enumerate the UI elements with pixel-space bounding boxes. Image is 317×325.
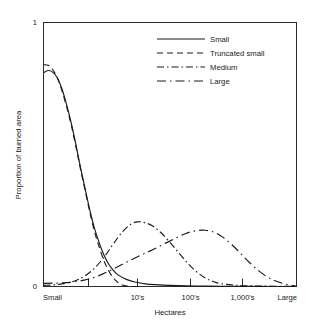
chart-legend: SmallTruncated smallMediumLarge [157, 35, 265, 86]
series-line-medium [44, 222, 297, 287]
x-axis-title: Hectares [154, 308, 185, 317]
figure-container: 1 0 Proportion of burned area Small 10's… [0, 0, 317, 325]
x-tick-label-large: Large [278, 293, 297, 302]
series-line-truncated-small [44, 65, 140, 287]
series-line-small [44, 71, 297, 287]
legend-label-medium: Medium [210, 63, 237, 72]
legend-label-small: Small [210, 35, 230, 44]
x-tick-label-hundreds: 100's [182, 293, 200, 302]
legend-label-truncated-small: Truncated small [210, 49, 265, 58]
legend-label-large: Large [210, 77, 230, 86]
x-tick-label-thousands: 1,000's [230, 293, 254, 302]
data-curves [44, 65, 297, 287]
y-axis-title: Proportion of burned area [14, 110, 23, 200]
x-tick-label-tens: 10's [131, 293, 145, 302]
line-chart: 1 0 Proportion of burned area Small 10's… [0, 0, 317, 325]
y-tick-label-top: 1 [33, 18, 37, 27]
x-tick-label-small: Small [43, 293, 62, 302]
plot-frame [44, 23, 297, 287]
y-tick-label-bottom: 0 [33, 282, 37, 291]
